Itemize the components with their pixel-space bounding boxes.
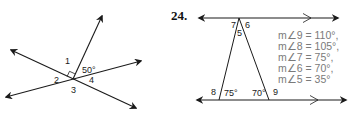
angle-70-label: 70° bbox=[252, 88, 266, 98]
given-measures: m∠9 = 110°, m∠8 = 105°, m∠7 = 75°, m∠6 =… bbox=[278, 29, 339, 85]
angle-6-label: 6 bbox=[245, 20, 250, 30]
angle-8-label: 8 bbox=[211, 87, 216, 97]
diagram-canvas: 1 50° 2 4 3 24. 7 6 5 8 75° 70° 9 m∠9 = … bbox=[0, 0, 351, 118]
left-figure: 1 50° 2 4 3 bbox=[6, 16, 141, 108]
right-angle-marker bbox=[67, 71, 75, 76]
problem-number: 24. bbox=[171, 8, 187, 23]
angle-75-label: 75° bbox=[224, 88, 238, 98]
given-m5: m∠5 = 35° bbox=[278, 73, 330, 85]
angle-9-label: 9 bbox=[273, 87, 278, 97]
angle-7-label: 7 bbox=[231, 20, 236, 30]
right-figure: 24. 7 6 5 8 75° 70° 9 m∠9 = 110°, m∠8 = … bbox=[171, 8, 346, 105]
angle-3-label: 3 bbox=[71, 85, 76, 95]
angle-1-label: 1 bbox=[65, 56, 70, 66]
angle-5-label: 5 bbox=[237, 28, 242, 38]
angle-2-label: 2 bbox=[54, 75, 59, 85]
angle-50-label: 50° bbox=[82, 65, 96, 75]
geometry-figure: 1 50° 2 4 3 24. 7 6 5 8 75° 70° 9 m∠9 = … bbox=[0, 0, 351, 118]
angle-4-label: 4 bbox=[89, 75, 94, 85]
